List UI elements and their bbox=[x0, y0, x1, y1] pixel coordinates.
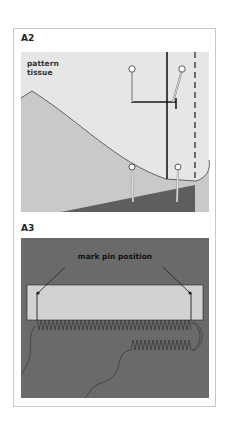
pin-head-icon bbox=[175, 164, 181, 170]
panel-label-a3: A3 bbox=[21, 223, 34, 233]
pin-head-icon bbox=[129, 164, 135, 170]
a2-annotation-line2: tissue bbox=[27, 68, 53, 77]
diagram-a2: pattern tissue bbox=[21, 52, 211, 212]
a3-strip bbox=[27, 285, 203, 320]
a3-annotation: mark pin position bbox=[78, 252, 152, 261]
panel-label-a2: A2 bbox=[21, 33, 34, 43]
pin-head-icon bbox=[179, 66, 185, 72]
pin-head-icon bbox=[129, 66, 135, 72]
a2-annotation-line1: pattern bbox=[27, 59, 59, 68]
diagram-a3: mark pin position bbox=[21, 238, 211, 398]
